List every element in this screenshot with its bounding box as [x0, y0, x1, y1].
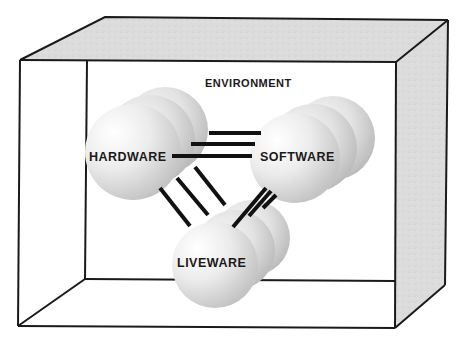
liveware-label: LIVEWARE: [177, 256, 246, 270]
hardware-sphere-group: [85, 87, 208, 200]
box-right-face: [395, 20, 448, 328]
environment-label: ENVIRONMENT: [205, 77, 292, 89]
hardware-label: HARDWARE: [89, 150, 167, 164]
shell-diagram: ENVIRONMENT HARDWARE SOFTWARE LIVEWARE: [0, 0, 462, 343]
hw-lw-line-3: [195, 167, 225, 205]
software-label: SOFTWARE: [260, 150, 335, 164]
liveware-sphere-group: [172, 200, 290, 308]
hw-lw-line-1: [160, 188, 190, 226]
box-top-face: [20, 17, 448, 62]
hw-lw-line-2: [177, 178, 208, 215]
diagram-canvas: [0, 0, 462, 343]
